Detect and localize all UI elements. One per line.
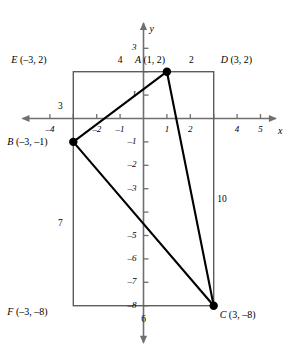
vertex-dot-B [69,138,77,146]
side-length-segment-DC-length: 10 [217,195,227,205]
x-tick-label-5: 5 [258,125,263,134]
y-axis-arrow-down [140,336,147,344]
vertex-dot-A [163,68,171,76]
y-tick-label--3: –3 [128,184,137,193]
coordinate-plane-svg [0,0,294,344]
vertex-label-B: B (–3, –1) [7,137,47,147]
side-length-segment-FC-length: 6 [141,315,146,325]
x-tick-label-1: 1 [165,125,170,134]
vertex-label-A: A (1, 2) [135,55,165,65]
vertex-label-D: D (3, 2) [221,55,252,65]
y-tick-label--6: –6 [128,254,137,263]
side-length-segment-AD-length: 2 [189,56,194,66]
x-tick-label--2: –2 [92,125,101,134]
x-tick-label-2: 2 [188,125,193,134]
side-length-segment-BF-length: 7 [58,219,63,229]
y-tick-label--2: –2 [128,160,137,169]
x-axis-name: x [278,126,282,136]
side-length-segment-EA-length: 4 [118,56,123,66]
vertex-label-E: E (–3, 2) [11,55,46,65]
x-axis-arrow-left [22,115,30,122]
x-tick-label--4: –4 [45,125,54,134]
y-tick-label-1: 1 [132,90,137,99]
vertex-label-F: F (–3, –8) [7,307,47,317]
x-tick-label--1: –1 [116,125,125,134]
y-tick-label--1: –1 [128,137,137,146]
x-axis-arrow-right [269,115,277,122]
y-tick-label-3: 3 [132,43,137,52]
vertex-dot-C [210,302,218,310]
vertex-label-C: C (3, –8) [220,310,256,320]
y-axis-name: y [150,24,154,34]
y-tick-label--7: –7 [128,277,137,286]
geometry-figure: y x –4–2–1124531–1–2–3–5–6–7–8A (1, 2)B … [0,0,294,344]
side-length-segment-EB-length: 3 [58,102,63,112]
y-axis-arrow-up [140,22,147,30]
y-tick-label--8: –8 [128,301,137,310]
x-tick-label-4: 4 [235,125,240,134]
triangle-edge-CA [167,72,214,306]
axes-group [22,22,277,344]
y-tick-label--5: –5 [128,231,137,240]
